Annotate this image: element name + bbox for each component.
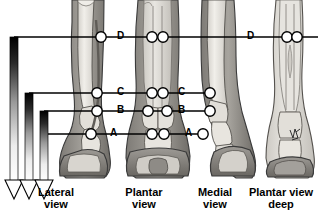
- marker-D-plantar-lateral[interactable]: [158, 32, 168, 42]
- marker-B-lateral[interactable]: [92, 106, 102, 116]
- marker-A-plantar-medial[interactable]: [147, 129, 157, 139]
- level-label-A-right: A: [185, 128, 192, 138]
- caption-lateral-view: Lateral view: [26, 186, 86, 210]
- marker-B-plantar-medial[interactable]: [143, 106, 153, 116]
- marker-B-medial[interactable]: [205, 106, 215, 116]
- level-label-B-right: B: [178, 105, 185, 115]
- depth-arrow-D: [5, 37, 23, 199]
- marker-C-lateral[interactable]: [92, 88, 102, 98]
- medial-hoof-inner: [218, 150, 247, 172]
- level-label-B-left: B: [117, 105, 124, 115]
- level-label-C-right: C: [178, 87, 185, 97]
- marker-D-deep-medial[interactable]: [282, 32, 292, 42]
- marker-C-plantar-medial[interactable]: [147, 88, 157, 98]
- plantar-cannon-bone: [143, 0, 172, 118]
- marker-A-medial[interactable]: [198, 129, 208, 139]
- marker-C-medial[interactable]: [205, 88, 215, 98]
- level-label-D-plantar: D: [117, 31, 124, 41]
- depth-arrows: [5, 37, 53, 199]
- marker-D-lateral[interactable]: [96, 32, 106, 42]
- anatomy-figure: D D C C B B A A Lateral view Plantar vie…: [0, 0, 318, 224]
- marker-A-plantar-lateral[interactable]: [159, 129, 169, 139]
- limb-plantar-view-deep: [266, 0, 314, 178]
- level-label-C-left: C: [117, 87, 124, 97]
- level-label-A-left: A: [110, 128, 117, 138]
- depth-arrow-C: [20, 93, 38, 199]
- deep-hoof-sole: [274, 160, 306, 175]
- marker-B-plantar-lateral[interactable]: [162, 106, 172, 116]
- caption-medial-view: Medial view: [186, 186, 244, 210]
- limb-lateral-view: [60, 0, 111, 178]
- marker-D-plantar-medial[interactable]: [147, 32, 157, 42]
- lateral-hoof-inner: [67, 154, 100, 172]
- caption-plantar-view: Plantar view: [114, 186, 174, 210]
- plantar-frog: [149, 158, 168, 174]
- caption-plantar-view-deep: Plantar view deep: [245, 186, 317, 210]
- marker-C-plantar-lateral[interactable]: [158, 88, 168, 98]
- deep-sesamoid-pair: [278, 112, 302, 138]
- marker-D-deep-lateral[interactable]: [292, 32, 302, 42]
- level-label-D-deep: D: [247, 31, 254, 41]
- marker-A-lateral[interactable]: [86, 129, 96, 139]
